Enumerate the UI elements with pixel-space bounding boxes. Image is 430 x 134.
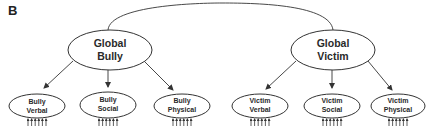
node-bully-physical: Bully Physical (154, 94, 210, 118)
node-victim-verbal-line2: Verbal (249, 106, 270, 113)
edge-global-victim-to-victim-verbal (266, 61, 296, 89)
node-global-bully: Global Bully (68, 30, 152, 70)
node-bully-verbal-line2: Verbal (26, 107, 47, 114)
node-victim-verbal-line1: Victim (250, 97, 271, 104)
node-bully-social: Bully Social (80, 92, 136, 118)
node-global-victim-line1: Global (317, 37, 350, 49)
bifactor-model-diagram: B Global Bully Global Victim Bully Verba… (0, 0, 430, 134)
node-bully-social-line1: Bully (99, 96, 116, 104)
node-bully-verbal: Bully Verbal (9, 94, 65, 118)
node-global-victim-line2: Victim (317, 50, 348, 62)
edge-global-bully-to-bully-verbal (44, 61, 73, 88)
indicator-arrows (28, 120, 407, 127)
edge-global-victim-to-victim-physical (368, 61, 392, 90)
panel-label: B (8, 3, 17, 18)
node-victim-social-line1: Victim (322, 97, 343, 104)
node-victim-social-line2: Social (322, 106, 343, 113)
node-victim-physical: Victim Physical (371, 94, 425, 118)
node-bully-physical-line2: Physical (168, 106, 196, 114)
node-bully-physical-line1: Bully (173, 97, 190, 105)
edge-global-bully-to-bully-physical (144, 61, 173, 90)
global-correlation-curve (108, 3, 333, 30)
node-victim-physical-line1: Victim (388, 97, 409, 104)
node-victim-social: Victim Social (304, 94, 360, 118)
node-global-bully-line2: Bully (97, 50, 123, 62)
node-global-bully-line1: Global (94, 37, 127, 49)
node-global-victim: Global Victim (291, 30, 375, 70)
node-victim-physical-line2: Physical (384, 106, 412, 114)
node-victim-verbal: Victim Verbal (232, 94, 288, 118)
node-bully-verbal-line1: Bully (28, 98, 45, 106)
node-bully-social-line2: Social (98, 105, 119, 112)
